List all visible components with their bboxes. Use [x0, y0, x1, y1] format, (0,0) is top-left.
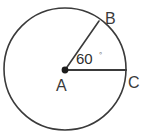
vertex-label-a: A	[56, 77, 67, 94]
vertex-label-b: B	[105, 10, 116, 27]
geometry-figure: A B C 60 ◦	[0, 0, 145, 137]
degree-symbol-icon: ◦	[99, 48, 102, 58]
vertex-label-c: C	[128, 74, 140, 91]
angle-measure-value: 60	[76, 50, 93, 67]
circle-diagram-svg: A B C 60 ◦	[0, 0, 145, 137]
center-point-dot	[62, 67, 69, 74]
